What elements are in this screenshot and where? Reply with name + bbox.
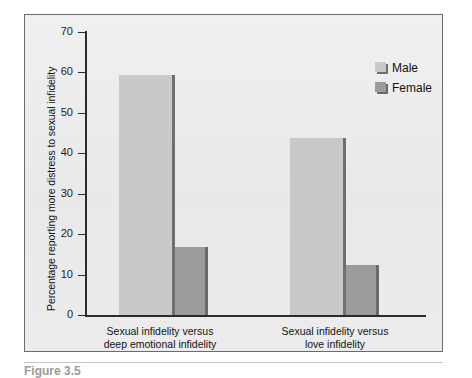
figure-frame: Percentage reporting more distress to se…: [24, 14, 443, 352]
x-category-label-1-line1: Sexual infidelity versus: [65, 325, 255, 338]
swatch-bottom: [377, 92, 388, 94]
x-category-label-1-line2: deep emotional infidelity: [65, 338, 255, 351]
y-tick-mark-50: [78, 113, 85, 114]
x-category-label-1: Sexual infidelity versus deep emotional …: [65, 325, 255, 351]
legend: Male Female: [375, 59, 432, 99]
y-tick-mark-0: [78, 315, 85, 316]
y-tick-mark-60: [78, 72, 85, 73]
y-axis-line: [85, 31, 87, 317]
x-axis-line: [85, 315, 426, 317]
legend-label-female: Female: [392, 81, 432, 95]
y-tick-label-40: 40: [39, 146, 73, 158]
caption-divider: [24, 362, 443, 363]
figure-caption-text: Figure 3.5: [24, 366, 224, 378]
y-tick-label-20: 20: [39, 227, 73, 239]
bar-face: [175, 247, 205, 316]
bar-face: [290, 138, 343, 316]
bar-female-group-2[interactable]: [346, 265, 379, 316]
y-tick-label-50: 50: [39, 106, 73, 118]
x-category-label-2: Sexual infidelity versus love infidelity: [240, 325, 430, 351]
y-tick-label-30: 30: [39, 187, 73, 199]
bar-face: [346, 265, 376, 316]
x-category-label-2-line2: love infidelity: [240, 338, 430, 351]
legend-swatch-male-icon: [375, 62, 388, 74]
bar-edge: [205, 247, 208, 316]
y-tick-label-70: 70: [39, 25, 73, 37]
bar-face: [119, 75, 172, 316]
y-tick-label-10: 10: [39, 268, 73, 280]
y-tick-mark-10: [78, 275, 85, 276]
figure-caption: Figure 3.5: [24, 366, 224, 378]
bar-edge: [376, 265, 379, 316]
y-tick-label-0: 0: [39, 308, 73, 320]
legend-label-male: Male: [392, 61, 418, 75]
legend-item-female[interactable]: Female: [375, 79, 432, 97]
swatch-face: [375, 82, 386, 92]
legend-swatch-female-icon: [375, 82, 388, 94]
y-tick-mark-20: [78, 234, 85, 235]
bar-male-group-1[interactable]: [119, 75, 175, 316]
bar-female-group-1[interactable]: [175, 247, 208, 316]
y-tick-mark-70: [78, 32, 85, 33]
x-category-label-2-line1: Sexual infidelity versus: [240, 325, 430, 338]
y-tick-mark-30: [78, 194, 85, 195]
bar-male-group-2[interactable]: [290, 138, 346, 316]
swatch-face: [375, 62, 386, 72]
y-tick-label-60: 60: [39, 65, 73, 77]
legend-item-male[interactable]: Male: [375, 59, 432, 77]
swatch-bottom: [377, 72, 388, 74]
y-tick-mark-40: [78, 153, 85, 154]
